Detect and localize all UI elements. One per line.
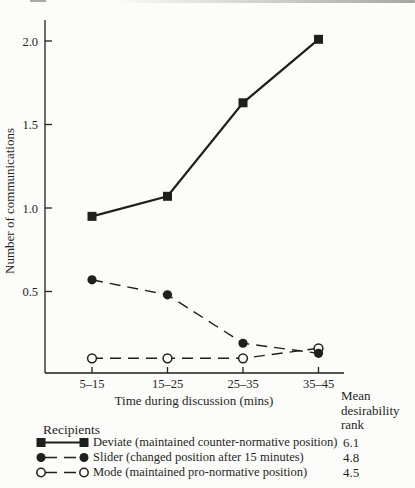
marker-deviate-0	[88, 212, 97, 221]
scan-artifact-top	[110, 0, 415, 3]
marker-deviate-3	[314, 35, 323, 44]
marker-slider-2	[238, 339, 247, 348]
series-layer	[87, 35, 323, 363]
series-line-mode	[92, 348, 319, 358]
legend-marker	[37, 453, 46, 462]
series-line-deviate	[92, 39, 319, 216]
x-axis-title: Time during discussion (mins)	[115, 393, 274, 408]
deviate-marker-icon	[36, 436, 90, 449]
y-tick-label: 0.5	[22, 285, 38, 299]
marker-mode-1	[163, 354, 172, 363]
y-tick-label: 2.0	[22, 35, 38, 49]
chart-plot: Number of communications Time during dis…	[0, 0, 415, 412]
x-tick-label: 25–35	[227, 377, 258, 391]
marker-slider-0	[87, 275, 96, 284]
rank-value-deviate: 6.1	[343, 435, 359, 451]
marker-slider-1	[163, 290, 172, 299]
marker-deviate-1	[163, 192, 172, 201]
figure-page: Number of communications Time during dis…	[0, 0, 415, 488]
legend-title: Recipients	[43, 422, 100, 438]
legend-row-mode: Mode (maintained pro-normative position)…	[0, 465, 415, 480]
legend-marker	[80, 453, 89, 462]
legend-marker	[37, 438, 46, 447]
legend-marker	[80, 438, 89, 447]
axes: 0.51.01.52.05–1515–2525–3535–45	[22, 20, 344, 391]
x-tick-label: 15–25	[152, 377, 183, 391]
rank-value-mode: 4.5	[343, 465, 359, 481]
legend-marker	[37, 468, 45, 476]
legend-label-slider: Slider (changed position after 15 minute…	[93, 450, 304, 465]
scan-artifact-small	[30, 0, 46, 2]
rank-value-slider: 4.8	[343, 450, 359, 466]
legend-row-deviate: Deviate (maintained counter-normative po…	[0, 435, 415, 450]
mode-marker-icon	[36, 466, 90, 479]
series-line-slider	[92, 280, 319, 353]
x-tick-label: 5–15	[80, 377, 105, 391]
y-tick-label: 1.0	[22, 202, 38, 216]
rank-header-line-3: rank	[341, 418, 400, 433]
legend-row-slider: Slider (changed position after 15 minute…	[0, 450, 415, 465]
marker-mode-0	[88, 354, 97, 363]
legend-marker	[80, 468, 88, 476]
slider-marker-icon	[36, 451, 90, 464]
marker-mode-2	[239, 354, 248, 363]
marker-deviate-2	[239, 98, 248, 107]
marker-slider-3	[314, 349, 323, 358]
legend-label-mode: Mode (maintained pro-normative position)	[93, 465, 307, 480]
x-tick-label: 35–45	[303, 377, 334, 391]
y-axis-title: Number of communications	[2, 128, 17, 274]
legend-label-deviate: Deviate (maintained counter-normative po…	[93, 435, 337, 450]
y-tick-label: 1.5	[22, 118, 38, 132]
